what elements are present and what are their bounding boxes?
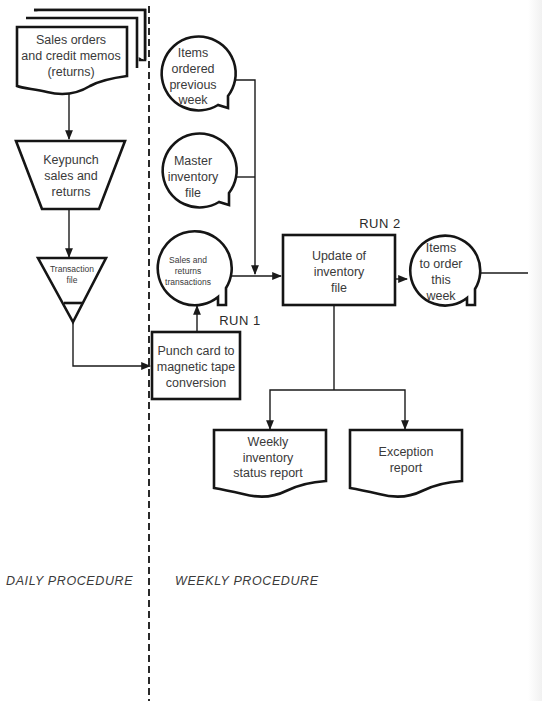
items-to-order-line-4: week — [425, 289, 456, 303]
update-line-3: file — [331, 281, 347, 295]
node-update-inventory: RUN 2 Update of inventory file — [283, 216, 401, 305]
keypunch-line-3: returns — [52, 185, 91, 199]
node-sales-returns-transactions: Sales and returns transactions — [158, 231, 232, 305]
update-line-2: inventory — [314, 265, 365, 279]
items-prev-line-2: ordered — [171, 62, 214, 76]
master-inventory-line-3: file — [185, 186, 201, 200]
page-edge-shading — [528, 0, 542, 701]
run-2-label: RUN 2 — [359, 216, 401, 231]
node-master-inventory-file: Master inventory file — [163, 133, 237, 207]
section-label-weekly: WEEKLY PROCEDURE — [175, 574, 319, 588]
edge-transaction-file-to-punch-to-tape — [73, 322, 150, 366]
exception-report-line-2: report — [390, 461, 423, 475]
node-transaction-file: Transaction file — [38, 258, 106, 322]
weekly-report-line-3: status report — [233, 466, 303, 480]
sales-docs-line-2: and credit memos — [21, 49, 120, 63]
node-punch-card-to-tape: RUN 1 Punch card to magnetic tape conver… — [152, 313, 261, 399]
node-keypunch: Keypunch sales and returns — [16, 141, 125, 209]
sales-returns-line-2: returns — [175, 266, 201, 276]
items-prev-line-3: previous — [169, 78, 216, 92]
run-1-label: RUN 1 — [219, 313, 261, 328]
items-to-order-line-2: to order — [419, 257, 462, 271]
node-items-ordered-previous-week: Items ordered previous week — [162, 36, 236, 110]
weekly-report-line-1: Weekly — [248, 435, 290, 449]
node-weekly-status-report: Weekly inventory status report — [214, 430, 326, 497]
keypunch-line-2: sales and — [44, 169, 98, 183]
punch-line-3: conversion — [166, 376, 226, 390]
update-line-1: Update of — [312, 249, 367, 263]
node-exception-report: Exception report — [350, 430, 462, 497]
master-inventory-line-1: Master — [174, 154, 212, 168]
punch-line-2: magnetic tape — [157, 360, 236, 374]
node-items-to-order: Items to order this week — [410, 236, 480, 306]
transaction-file-line-2: file — [67, 275, 78, 285]
node-sales-documents: Sales orders and credit memos (returns) — [17, 10, 145, 94]
exception-report-line-1: Exception — [379, 445, 434, 459]
items-prev-line-4: week — [177, 93, 208, 107]
master-inventory-line-2: inventory — [168, 170, 219, 184]
sales-returns-line-3: transactions — [165, 277, 211, 287]
punch-line-1: Punch card to — [157, 344, 234, 358]
keypunch-line-1: Keypunch — [43, 153, 99, 167]
inventory-flowchart: Sales orders and credit memos (returns) … — [0, 0, 542, 701]
sales-docs-line-1: Sales orders — [36, 33, 106, 47]
section-label-daily: DAILY PROCEDURE — [6, 574, 133, 588]
transaction-file-line-1: Transaction — [50, 264, 94, 274]
weekly-report-line-2: inventory — [243, 451, 294, 465]
items-prev-line-1: Items — [178, 46, 209, 60]
items-to-order-line-3: this — [431, 273, 450, 287]
sales-docs-line-3: (returns) — [47, 65, 94, 79]
edge-update-to-weekly-report — [270, 390, 334, 429]
sales-returns-line-1: Sales and — [169, 255, 207, 265]
edge-update-to-exception-report — [334, 390, 405, 429]
items-to-order-line-1: Items — [426, 241, 457, 255]
